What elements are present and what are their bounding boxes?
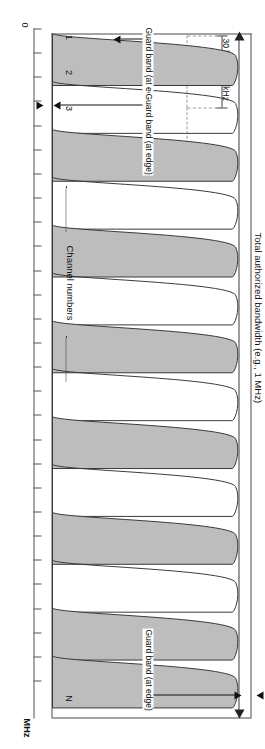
axis-tick [33,680,41,681]
axis-tick [33,28,41,29]
channel-response-curves [0,0,265,749]
axis-tick [33,342,41,343]
axis-tick [33,318,41,319]
channel-curve [52,416,237,468]
channel-ellipsis-right [65,335,66,381]
channel-label-1: 1 [63,25,73,49]
channel-curve [52,320,237,372]
axis-tick [33,149,41,150]
guard-band-arrow-outer-icon [53,101,60,109]
channel-numbers-label: Channel numbers [64,245,75,320]
axis-tick [33,487,41,488]
axis-tick [33,100,41,101]
guard-band-arrow-left-icon [113,35,120,43]
guard-band-stem-right [153,694,235,695]
channel-label-3: 3 [63,96,73,120]
axis-tick [33,76,41,77]
guard-band-stem-outer [60,104,142,105]
spectrum-channelization-figure: Total authorized bandwidth (e.g., 1 MHz)… [0,0,265,749]
axis-tick [33,583,41,584]
axis-tick [33,173,41,174]
axis-origin-label: 0 [19,22,29,27]
figure-canvas: Total authorized bandwidth (e.g., 1 MHz)… [0,0,265,749]
axis-tick [33,439,41,440]
channel-curve [52,177,237,229]
channel-curve [52,512,237,564]
guard-band-label-right-edge: Guard band (at edge) [142,628,153,711]
axis-tick [33,511,41,512]
axis-tick [33,632,41,633]
axis-tick [33,270,41,271]
guard-band-arrow-right-icon [234,691,241,699]
axis-unit-label: MHz [21,718,31,737]
channel-curve [52,272,237,324]
axis-tick [33,125,41,126]
axis-tick [33,535,41,536]
axis-tick [33,559,41,560]
channel-curve [52,560,237,612]
axis-tick [33,656,41,657]
outer-guard-marker-left-icon [36,101,43,109]
channel-label-n: N [63,686,73,710]
channel-curve [52,368,237,420]
channel-ellipsis-left [65,185,66,231]
axis-tick [33,245,41,246]
axis-tick [33,608,41,609]
axis-tick [33,390,41,391]
channel-label-2: 2 [63,60,73,84]
channel-curve [52,464,237,516]
axis-tick [33,294,41,295]
axis-tick [33,52,41,53]
axis-tick [33,414,41,415]
outer-guard-marker-right-icon [256,691,263,699]
frequency-axis [33,28,34,718]
axis-tick [33,197,41,198]
channel-curve [52,225,237,277]
guard-band-label-outer: Guard band (at edge) [142,92,153,175]
axis-tick [33,463,41,464]
axis-tick [33,366,41,367]
axis-tick [33,221,41,222]
guard-band-stem-left [120,38,142,39]
